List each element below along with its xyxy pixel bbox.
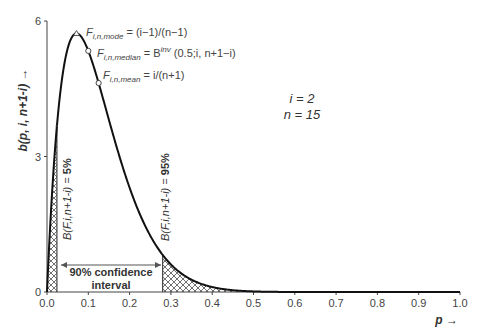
median-annotation: Fi,n,median = Binv (0.5;i, n+1−i) (97, 45, 236, 62)
x-axis-label: p → (434, 313, 458, 327)
mode-annotation: Fi,n,mode = (i−1)/(n−1) (86, 26, 187, 41)
median-subscript: i,n,median (104, 53, 141, 62)
lower-bound-percent: 5% (61, 158, 73, 174)
mean-marker (96, 80, 101, 85)
x-tick-label: 1.0 (452, 297, 467, 309)
confidence-interval-label-line2: interval (91, 279, 130, 291)
lower-bound-label: B(F,i,n+1-i) = 5% (61, 158, 73, 240)
y-tick-label: 0 (35, 286, 41, 298)
mean-formula: = i/(n+1) (140, 69, 184, 81)
beta-distribution-chart: 0.00.10.20.30.40.50.60.70.80.91.0036 b(p… (0, 0, 484, 336)
param-i-label: i = 2 (290, 91, 316, 106)
upper-bound-formula: B(F,i,n+1-i) = (159, 175, 171, 241)
x-tick-label: 0.8 (370, 297, 385, 309)
y-axis-label: b(p, i, n+1-i) → (16, 69, 30, 152)
lower-bound-marker (56, 125, 58, 127)
mode-marker (74, 30, 80, 35)
x-tick-label: 0.5 (246, 297, 261, 309)
y-tick-label: 6 (35, 15, 41, 27)
x-tick-label: 0.4 (205, 297, 220, 309)
x-tick-label: 0.6 (287, 297, 302, 309)
x-tick-label: 0.9 (411, 297, 426, 309)
upper-bound-label: B(F,i,n+1-i) = 95% (159, 153, 171, 241)
mode-subscript: i,n,mode (93, 32, 124, 41)
lower-bound-formula: B(F,i,n+1-i) = (61, 174, 73, 240)
confidence-interval-label-line1: 90% confidence (69, 266, 152, 278)
median-formula-args: (0.5;i, n+1−i) (171, 47, 236, 59)
x-tick-label: 0.7 (328, 297, 343, 309)
x-tick-label: 0.2 (122, 297, 137, 309)
median-marker (86, 48, 91, 53)
param-n-label: n = 15 (284, 107, 321, 122)
upper-bound-percent: 95% (159, 153, 171, 175)
chart-svg: 0.00.10.20.30.40.50.60.70.80.91.0036 b(p… (0, 0, 484, 336)
x-tick-label: 0.3 (163, 297, 178, 309)
median-formula-b: = B (141, 47, 161, 59)
mean-subscript: i,n,mean (110, 75, 141, 84)
x-tick-label: 0.0 (39, 297, 54, 309)
mode-formula: = (i−1)/(n−1) (123, 26, 187, 38)
y-tick-label: 3 (35, 151, 41, 163)
mean-annotation: Fi,n,mean = i/(n+1) (103, 69, 184, 84)
x-tick-label: 0.1 (81, 297, 96, 309)
